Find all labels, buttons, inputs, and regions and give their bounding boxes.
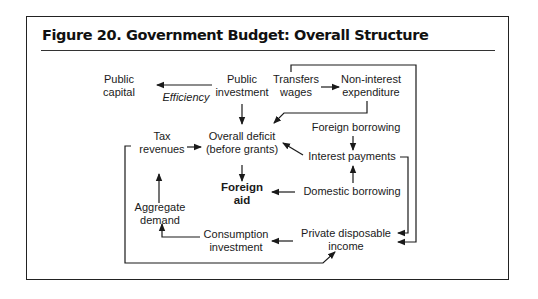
node-foreign-aid-line1: Foreign <box>221 181 263 194</box>
node-public-investment: Public investment <box>215 73 268 99</box>
node-domestic-borrowing: Domestic borrowing <box>303 185 400 198</box>
node-consumption-investment-line2: investment <box>204 241 269 254</box>
edge-noninterest-to-deficit <box>274 101 367 123</box>
node-public-capital-line2: capital <box>103 86 135 99</box>
node-transfers-wages-line1: Transfers <box>273 73 319 86</box>
node-consumption-investment-line1: Consumption <box>204 228 269 241</box>
node-tax-revenues-line2: revenues <box>139 143 184 156</box>
node-transfers-wages: Transfers wages <box>273 73 319 99</box>
node-private-income-line1: Private disposable <box>301 227 391 240</box>
node-aggregate-demand-line2: demand <box>135 214 186 227</box>
node-transfers-wages-line2: wages <box>273 86 319 99</box>
node-non-interest-line2: expenditure <box>341 86 401 99</box>
node-public-investment-line2: investment <box>215 86 268 99</box>
node-tax-revenues: Tax revenues <box>139 130 184 156</box>
node-public-capital: Public capital <box>103 73 135 99</box>
node-tax-revenues-line1: Tax <box>139 130 184 143</box>
node-private-income-line2: income <box>301 240 391 253</box>
node-aggregate-demand: Aggregate demand <box>135 201 186 227</box>
node-foreign-borrowing: Foreign borrowing <box>312 121 401 134</box>
node-private-disposable-income: Private disposable income <box>301 227 391 253</box>
node-foreign-aid-line2: aid <box>221 194 263 207</box>
node-consumption-investment: Consumption investment <box>204 228 269 254</box>
edge-interest-to-deficit <box>283 143 303 155</box>
node-public-capital-line1: Public <box>103 73 135 86</box>
node-overall-deficit: Overall deficit (before grants) <box>206 130 278 156</box>
node-non-interest-line1: Non-interest <box>341 73 401 86</box>
node-overall-deficit-line2: (before grants) <box>206 143 278 156</box>
node-public-investment-line1: Public <box>215 73 268 86</box>
node-aggregate-demand-line1: Aggregate <box>135 201 186 214</box>
label-efficiency: Efficiency <box>162 91 209 104</box>
node-non-interest-expenditure: Non-interest expenditure <box>341 73 401 99</box>
node-foreign-aid: Foreign aid <box>221 181 263 207</box>
node-overall-deficit-line1: Overall deficit <box>206 130 278 143</box>
node-interest-payments: Interest payments <box>308 150 395 163</box>
